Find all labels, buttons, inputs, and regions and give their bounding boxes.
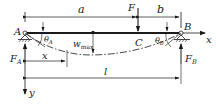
reaction-FA-label: FA [9, 53, 22, 66]
beam-diagram: a b F x wmax C A B [0, 0, 216, 110]
point-A-label: A [13, 26, 21, 37]
dimension-l-label: l [104, 66, 107, 77]
theta-B-label: θB [155, 36, 164, 46]
theta-A-indicator [25, 22, 45, 47]
reaction-FB-label: FB [184, 53, 197, 66]
theta-A-label: θA [44, 35, 53, 45]
x-axis-label: x [206, 34, 212, 45]
wmax-label: wmax [73, 39, 94, 50]
load-F-label: F [127, 2, 136, 13]
theta-B-indicator [165, 22, 181, 47]
y-axis-label: y [28, 87, 35, 98]
dimension-a-label: a [78, 3, 85, 16]
dimension-b-label: b [157, 3, 164, 16]
point-C-label: C [135, 37, 143, 48]
dimension-x-label: x [42, 50, 48, 61]
point-B-label: B [183, 21, 191, 32]
